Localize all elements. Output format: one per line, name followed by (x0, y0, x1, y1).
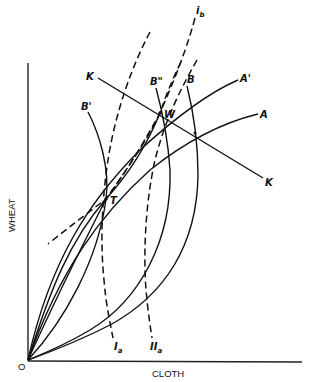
label-I-alpha: Ia (114, 341, 123, 355)
point-W (158, 111, 162, 115)
curve-i-b (48, 18, 195, 244)
label-B-prime: B' (81, 101, 92, 112)
label-B-double-prime: B" (150, 76, 163, 87)
label-i-b-sub: b (199, 11, 204, 19)
y-axis-label: WHEAT (6, 198, 17, 232)
curve-A-prime (28, 80, 238, 360)
line-K (98, 78, 263, 178)
label-K-top: K (86, 71, 95, 82)
label-B: B (187, 74, 195, 85)
label-A-prime: A' (239, 73, 251, 84)
curve-B (28, 86, 198, 360)
label-W: W (164, 109, 176, 120)
x-axis (28, 361, 302, 362)
label-I-alpha-sub: a (118, 347, 123, 355)
label-II-alpha-sub: a (157, 347, 162, 355)
point-A-B-intersection (194, 132, 197, 135)
ray-to-T (28, 199, 106, 360)
origin-label: O (18, 361, 25, 372)
x-axis-label: CLOTH (152, 368, 184, 379)
label-II-alpha: IIa (150, 341, 162, 355)
edgeworth-box-diagram: K K B' B" B A' A W T ib Ia IIa O CLOTH W… (0, 0, 311, 382)
curve-A (28, 114, 258, 360)
label-A: A (259, 109, 268, 120)
point-T (104, 197, 108, 201)
label-i-b: ib (196, 5, 204, 19)
label-K-bottom: K (265, 177, 274, 188)
curve-II-alpha (145, 60, 197, 338)
label-T: T (110, 195, 118, 206)
